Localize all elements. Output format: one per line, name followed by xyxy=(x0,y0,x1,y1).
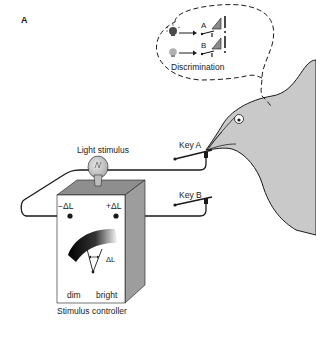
key-a-label: Key A xyxy=(179,140,201,150)
dim-label: dim xyxy=(67,290,81,300)
diagram-canvas xyxy=(0,0,316,338)
bright-label: bright xyxy=(96,290,117,300)
pecking-beak-b-icon xyxy=(212,38,221,49)
pecking-beak-a-icon xyxy=(212,18,221,29)
light-stimulus-label: Light stimulus xyxy=(77,145,129,155)
discrimination-caption: Discrimination xyxy=(171,62,224,72)
reward-exclaim-a-icon xyxy=(224,16,226,33)
bulb-dim-icon xyxy=(169,48,177,57)
arrow-right-icon xyxy=(179,31,197,36)
reward-exclaim-b-icon xyxy=(224,36,226,53)
stimulus-controller-box xyxy=(57,180,145,303)
stimulus-controller-label: Stimulus controller xyxy=(57,306,127,316)
bubble-key-a-label: A xyxy=(201,21,206,30)
pigeon-icon xyxy=(206,60,316,235)
bubble-key-b-label: B xyxy=(201,41,206,50)
thought-bubble xyxy=(156,5,273,108)
key-switch-a-icon xyxy=(201,31,214,37)
key-switch-b-icon xyxy=(201,51,214,57)
arrow-right-icon xyxy=(179,51,197,56)
delta-l-label: ΔL xyxy=(106,255,115,264)
key-b-label: Key B xyxy=(179,190,202,200)
panel-label: A xyxy=(21,15,28,25)
plus-delta-label: +ΔL xyxy=(106,201,121,211)
minus-delta-label: −ΔL xyxy=(58,201,73,211)
